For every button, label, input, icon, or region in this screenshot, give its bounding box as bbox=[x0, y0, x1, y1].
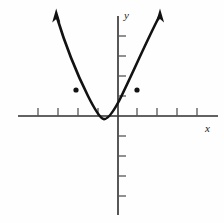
y-axis-label: y bbox=[123, 9, 129, 21]
parabola-figure: y x bbox=[0, 0, 224, 223]
graph-canvas: y x bbox=[0, 0, 224, 223]
x-axis-label: x bbox=[204, 122, 210, 134]
marked-point bbox=[134, 87, 139, 92]
marked-point bbox=[73, 87, 78, 92]
